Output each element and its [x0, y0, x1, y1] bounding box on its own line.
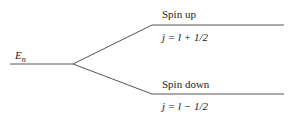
spin-up-formula: j = l + 1/2	[162, 32, 208, 43]
energy-splitting-diagram	[0, 0, 294, 118]
energy-level-label: En	[15, 50, 26, 64]
spin-down-formula: j = l − 1/2	[162, 101, 208, 112]
spin-down-label: Spin down	[162, 79, 209, 90]
spin-up-label: Spin up	[162, 9, 196, 20]
